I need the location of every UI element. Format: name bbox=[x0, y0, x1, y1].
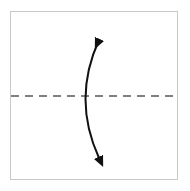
diagram-canvas bbox=[0, 0, 190, 191]
figure-root: Curved double-headed arrow crossing a da… bbox=[0, 0, 190, 191]
curved-double-arrow bbox=[86, 40, 100, 158]
